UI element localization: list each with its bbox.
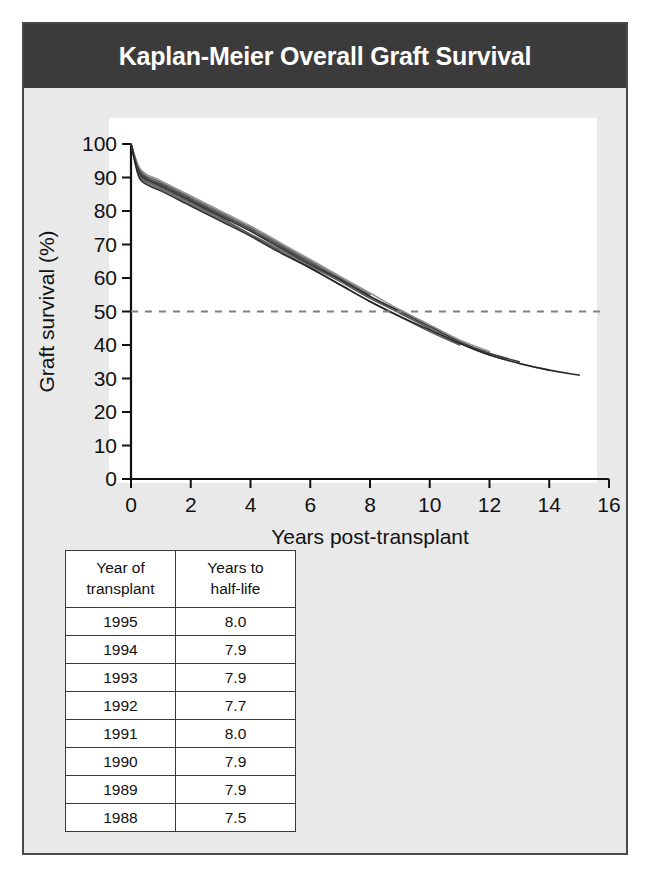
- y-tick-label: 90: [94, 166, 117, 189]
- y-tick-label: 100: [82, 132, 117, 155]
- cell-year-of-transplant: 1988: [66, 804, 176, 832]
- plot-background: [109, 118, 597, 483]
- figure-panel: Kaplan-Meier Overall Graft Survival 0102…: [22, 22, 628, 855]
- x-tick-label: 6: [304, 493, 316, 516]
- column-header-years-to-half-life: Years to half-life: [176, 551, 296, 608]
- y-tick-label: 60: [94, 266, 117, 289]
- x-tick-label: 10: [418, 493, 441, 516]
- cell-year-of-transplant: 1990: [66, 748, 176, 776]
- cell-year-of-transplant: 1993: [66, 664, 176, 692]
- table-row: 19947.9: [66, 636, 296, 664]
- kaplan-meier-survival-chart: 01020304050607080901000246810121416Years…: [24, 88, 628, 558]
- x-axis-title: Years post-transplant: [271, 525, 469, 548]
- table-row: 19907.9: [66, 748, 296, 776]
- x-tick-label: 12: [478, 493, 501, 516]
- x-tick-label: 2: [185, 493, 197, 516]
- header-line-2: transplant: [86, 580, 154, 597]
- y-tick-label: 40: [94, 333, 117, 356]
- table-row: 19937.9: [66, 664, 296, 692]
- table-row: 19897.9: [66, 776, 296, 804]
- cell-years-to-half-life: 8.0: [176, 608, 296, 636]
- x-tick-label: 0: [125, 493, 137, 516]
- cell-year-of-transplant: 1991: [66, 720, 176, 748]
- cell-years-to-half-life: 7.5: [176, 804, 296, 832]
- cell-years-to-half-life: 7.9: [176, 748, 296, 776]
- header-line-1: Year of: [96, 559, 145, 576]
- graft-half-life-table: Year of transplant Years to half-life 19…: [65, 550, 296, 832]
- header-line-2: half-life: [211, 580, 261, 597]
- x-tick-label: 14: [538, 493, 562, 516]
- cell-year-of-transplant: 1994: [66, 636, 176, 664]
- x-tick-label: 16: [597, 493, 620, 516]
- figure-title: Kaplan-Meier Overall Graft Survival: [119, 42, 532, 71]
- cell-years-to-half-life: 8.0: [176, 720, 296, 748]
- y-tick-label: 10: [94, 434, 117, 457]
- cell-year-of-transplant: 1992: [66, 692, 176, 720]
- column-header-year-of-transplant: Year of transplant: [66, 551, 176, 608]
- y-tick-label: 80: [94, 199, 117, 222]
- table-body: 19958.019947.919937.919927.719918.019907…: [66, 608, 296, 832]
- chart-region: 01020304050607080901000246810121416Years…: [24, 88, 626, 558]
- table-row: 19958.0: [66, 608, 296, 636]
- cell-years-to-half-life: 7.9: [176, 664, 296, 692]
- table-header-row: Year of transplant Years to half-life: [66, 551, 296, 608]
- header-line-1: Years to: [207, 559, 263, 576]
- table-row: 19927.7: [66, 692, 296, 720]
- y-tick-label: 30: [94, 367, 117, 390]
- cell-years-to-half-life: 7.9: [176, 776, 296, 804]
- cell-year-of-transplant: 1995: [66, 608, 176, 636]
- y-tick-label: 70: [94, 233, 117, 256]
- cell-years-to-half-life: 7.7: [176, 692, 296, 720]
- table-row: 19918.0: [66, 720, 296, 748]
- table-row: 19887.5: [66, 804, 296, 832]
- y-axis-title: Graft survival (%): [35, 230, 58, 392]
- y-tick-label: 50: [94, 300, 117, 323]
- cell-year-of-transplant: 1989: [66, 776, 176, 804]
- cell-years-to-half-life: 7.9: [176, 636, 296, 664]
- figure-title-bar: Kaplan-Meier Overall Graft Survival: [24, 24, 626, 88]
- y-tick-label: 0: [105, 467, 117, 490]
- x-tick-label: 8: [364, 493, 376, 516]
- x-tick-label: 4: [245, 493, 257, 516]
- y-tick-label: 20: [94, 400, 117, 423]
